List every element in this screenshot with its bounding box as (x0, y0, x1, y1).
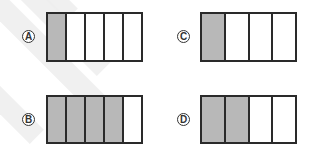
cell-empty (224, 14, 248, 60)
cell-empty (84, 14, 103, 60)
cell-empty (122, 14, 141, 60)
fraction-bar-d (200, 95, 297, 144)
cell-shaded (48, 97, 65, 142)
cell-empty (248, 97, 272, 142)
cell-shaded (84, 97, 103, 142)
option-b-label: B (22, 113, 35, 126)
cell-shaded (103, 97, 122, 142)
cell-shaded (48, 14, 65, 60)
cell-shaded (224, 97, 248, 142)
cell-empty (103, 14, 122, 60)
fraction-bar-b (46, 95, 143, 144)
cell-empty (271, 14, 295, 60)
option-c-label: C (177, 30, 190, 43)
watermark-stripe (0, 66, 44, 144)
option-a-label: A (22, 30, 35, 43)
cell-empty (65, 14, 84, 60)
cell-shaded (202, 14, 224, 60)
fraction-bar-c (200, 12, 297, 62)
cell-shaded (202, 97, 224, 142)
fraction-bar-a (46, 12, 143, 62)
option-d-label: D (177, 113, 190, 126)
cell-shaded (65, 97, 84, 142)
cell-empty (122, 97, 141, 142)
cell-empty (248, 14, 272, 60)
cell-empty (271, 97, 295, 142)
